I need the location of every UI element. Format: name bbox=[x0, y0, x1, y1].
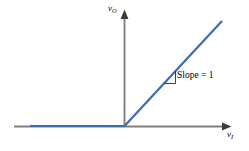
y-axis-label-subscript: O bbox=[112, 7, 117, 14]
x-axis-label: vI bbox=[227, 130, 233, 139]
x-axis-label-subscript: I bbox=[231, 133, 233, 140]
transfer-characteristic-figure: vO vI Slope = 1 bbox=[0, 0, 249, 151]
y-axis-arrowhead bbox=[121, 10, 129, 20]
slope-annotation-label: Slope = 1 bbox=[177, 71, 214, 81]
y-axis-label: vO bbox=[108, 4, 117, 13]
